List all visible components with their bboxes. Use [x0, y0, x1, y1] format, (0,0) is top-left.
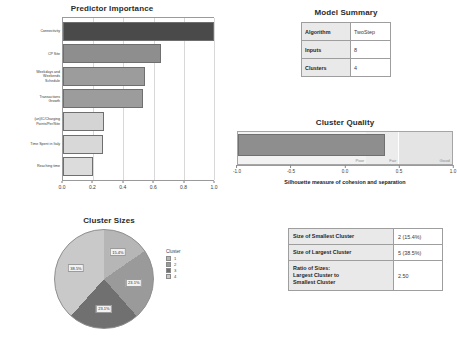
- legend-label: 4: [174, 274, 176, 279]
- predictor-bar-row: Reaching time: [63, 157, 214, 176]
- predictor-label: Reaching time: [4, 164, 60, 168]
- axis-tick: 0.4: [119, 181, 126, 190]
- predictor-bar-list: ConnectivityCP SiteWeekdays and Weekends…: [63, 18, 214, 180]
- predictor-label: (un)IC/Charging Points/Per/Site: [4, 117, 60, 126]
- gridline: [214, 18, 215, 180]
- model-summary-value: 8: [351, 41, 391, 59]
- axis-tick: 1.0: [211, 181, 218, 190]
- size-summary-key: Ratio of Sizes: Largest Cluster to Small…: [289, 261, 394, 291]
- predictor-importance-title: Predictor Importance: [4, 4, 220, 13]
- legend-item: 3: [166, 268, 226, 273]
- cluster-quality-chart: Cluster Quality PoorFairGood -1.0-0.50.0…: [233, 118, 457, 185]
- predictor-label: Weekdays and Weekends Schedule: [4, 70, 60, 83]
- axis-tick: 0.6: [150, 181, 157, 190]
- cluster-legend: Cluster 1234: [166, 249, 226, 280]
- predictor-importance-x-axis: 0.00.20.40.60.81.0: [62, 181, 214, 195]
- table-row: Clusters4: [302, 59, 391, 77]
- legend-item: 2: [166, 262, 226, 267]
- pie-slice-label: 15.4%: [110, 248, 126, 256]
- cluster-quality-x-axis: -1.0-0.50.00.51.0: [237, 165, 453, 177]
- predictor-label: Connectivity: [4, 29, 60, 33]
- model-summary-key: Clusters: [302, 59, 351, 77]
- model-summary-key: Inputs: [302, 41, 351, 59]
- table-row: AlgorithmTwoStep: [302, 23, 391, 41]
- axis-tick: 1.0: [450, 165, 456, 174]
- predictor-bar: [63, 112, 104, 131]
- legend-label: 3: [174, 268, 176, 273]
- legend-item: 4: [166, 274, 226, 279]
- predictor-label: Transactions Growth: [4, 95, 60, 104]
- cluster-legend-title: Cluster: [166, 249, 226, 254]
- size-summary-key: Size of Largest Cluster: [289, 245, 394, 261]
- axis-tick: 0.0: [59, 181, 66, 190]
- pie-chart: 15.4%23.1%23.1%38.5%: [54, 229, 154, 329]
- predictor-importance-chart: Predictor Importance ConnectivityCP Site…: [4, 4, 220, 209]
- cluster-quality-plot-area: PoorFairGood: [237, 131, 453, 165]
- predictor-label: CP Site: [4, 52, 60, 56]
- pie-slice-label: 38.5%: [68, 264, 84, 272]
- predictor-bar: [63, 67, 145, 86]
- model-summary-title: Model Summary: [290, 8, 402, 17]
- predictor-bar-row: (un)IC/Charging Points/Per/Site: [63, 112, 214, 131]
- model-summary-value: TwoStep: [351, 23, 391, 41]
- model-summary-table: AlgorithmTwoStepInputs8Clusters4: [301, 22, 391, 77]
- cluster-sizes-title: Cluster Sizes: [44, 216, 174, 225]
- predictor-bar-row: Connectivity: [63, 22, 214, 41]
- axis-tick: 0.5: [396, 165, 402, 174]
- table-row: Size of Smallest Cluster2 (15.4%): [289, 229, 443, 245]
- legend-label: 1: [174, 256, 176, 261]
- predictor-label: Time Spent in Italy: [4, 142, 60, 146]
- pie-slice-label: 23.1%: [96, 305, 112, 313]
- model-summary-key: Algorithm: [302, 23, 351, 41]
- table-row: Inputs8: [302, 41, 391, 59]
- predictor-bar-row: CP Site: [63, 44, 214, 63]
- size-summary-table: Size of Smallest Cluster2 (15.4%)Size of…: [288, 228, 443, 291]
- model-summary-value: 4: [351, 59, 391, 77]
- predictor-bar: [63, 22, 214, 41]
- size-summary-value: 2 (15.4%): [394, 229, 443, 245]
- pie-slice-label: 23.1%: [126, 279, 142, 287]
- axis-tick: -0.5: [287, 165, 295, 174]
- size-summary-key: Size of Smallest Cluster: [289, 229, 394, 245]
- predictor-bar: [63, 89, 143, 108]
- predictor-bar: [63, 157, 93, 176]
- size-summary-value: 5 (38.5%): [394, 245, 443, 261]
- legend-swatch: [166, 274, 171, 279]
- legend-label: 2: [174, 262, 176, 267]
- axis-tick: 0.2: [89, 181, 96, 190]
- cluster-quality-title: Cluster Quality: [233, 118, 457, 127]
- axis-tick: 0.0: [342, 165, 348, 174]
- cluster-sizes-chart: Cluster Sizes 15.4%23.1%23.1%38.5% Clust…: [44, 216, 250, 342]
- table-row: Ratio of Sizes: Largest Cluster to Small…: [289, 261, 443, 291]
- size-summary-panel: Size of Smallest Cluster2 (15.4%)Size of…: [288, 228, 448, 291]
- cluster-quality-caption: Silhouette measure of cohesion and separ…: [233, 179, 457, 185]
- predictor-bar-row: Transactions Growth: [63, 89, 214, 108]
- predictor-bar-row: Weekdays and Weekends Schedule: [63, 67, 214, 86]
- table-row: Size of Largest Cluster5 (38.5%): [289, 245, 443, 261]
- predictor-bar: [63, 135, 103, 154]
- legend-item: 1: [166, 256, 226, 261]
- predictor-bar-row: Time Spent in Italy: [63, 135, 214, 154]
- quality-zone-label: Fair: [389, 158, 396, 163]
- legend-swatch: [166, 262, 171, 267]
- axis-tick: -1.0: [233, 165, 241, 174]
- quality-zone-label: Good: [440, 158, 450, 163]
- model-summary-panel: Model Summary AlgorithmTwoStepInputs8Clu…: [290, 8, 402, 77]
- predictor-bar: [63, 44, 161, 63]
- legend-swatch: [166, 256, 171, 261]
- axis-tick: 0.8: [180, 181, 187, 190]
- legend-swatch: [166, 268, 171, 273]
- predictor-importance-plot-area: ConnectivityCP SiteWeekdays and Weekends…: [62, 17, 214, 181]
- size-summary-value: 2.50: [394, 261, 443, 291]
- quality-zone-label: Poor: [355, 158, 364, 163]
- cluster-quality-bar: [238, 134, 385, 156]
